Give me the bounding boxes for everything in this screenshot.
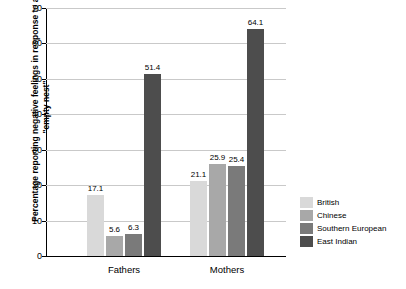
y-tick-mark <box>42 221 46 222</box>
y-tick-label: 20 <box>32 180 42 190</box>
y-tick-mark <box>42 185 46 186</box>
bar: 17.1 <box>87 195 104 256</box>
legend-label: East Indian <box>317 237 357 246</box>
y-tick-label: 10 <box>32 216 42 226</box>
legend-item: East Indian <box>300 235 400 247</box>
bar-value-label: 25.9 <box>210 153 226 162</box>
bar: 64.1 <box>247 29 264 256</box>
legend-item: Chinese <box>300 209 400 221</box>
bar-value-label: 25.4 <box>229 155 245 164</box>
y-tick-label: 30 <box>32 145 42 155</box>
legend-swatch <box>300 236 313 247</box>
bar: 5.6 <box>106 236 123 256</box>
bar: 51.4 <box>144 74 161 256</box>
y-tick-label: 0 <box>37 251 42 261</box>
y-tick-label: 60 <box>32 38 42 48</box>
y-tick-mark <box>42 8 46 9</box>
bar-value-label: 6.3 <box>128 223 139 232</box>
x-tick-label: Fathers <box>108 264 140 275</box>
gridline <box>46 8 286 9</box>
y-tick-mark <box>42 79 46 80</box>
x-tick-label: Mothers <box>210 264 244 275</box>
legend-label: British <box>317 198 339 207</box>
bar-value-label: 64.1 <box>248 18 264 27</box>
legend: BritishChineseSouthern EuropeanEast Indi… <box>300 196 400 248</box>
bar: 25.9 <box>209 164 226 256</box>
legend-label: Southern European <box>317 224 386 233</box>
legend-label: Chinese <box>317 211 346 220</box>
y-tick-label: 50 <box>32 74 42 84</box>
page-edge-artifact <box>402 180 406 220</box>
legend-swatch <box>300 210 313 221</box>
y-tick-mark <box>42 114 46 115</box>
y-tick-mark <box>42 150 46 151</box>
bar-chart: Percentage reporting negative feelings i… <box>0 0 406 289</box>
legend-swatch <box>300 197 313 208</box>
y-tick-mark <box>42 256 46 257</box>
bar: 6.3 <box>125 234 142 256</box>
legend-swatch <box>300 223 313 234</box>
y-tick-mark <box>42 43 46 44</box>
bar: 25.4 <box>228 166 245 256</box>
bar-value-label: 21.1 <box>191 170 207 179</box>
legend-item: British <box>300 196 400 208</box>
bar-value-label: 51.4 <box>145 63 161 72</box>
legend-item: Southern European <box>300 222 400 234</box>
bar-value-label: 17.1 <box>88 184 104 193</box>
plot-area: 010203040506070 17.15.66.351.421.125.925… <box>46 8 286 257</box>
bar: 21.1 <box>190 181 207 256</box>
y-tick-label: 40 <box>32 109 42 119</box>
y-tick-label: 70 <box>32 3 42 13</box>
bar-value-label: 5.6 <box>109 225 120 234</box>
